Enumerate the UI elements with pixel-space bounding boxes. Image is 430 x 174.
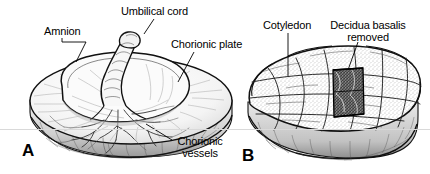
label-chorionic-plate: Chorionic plate [171, 39, 242, 51]
label-decidua-basalis-line2: removed [322, 32, 414, 44]
label-chorionic-vessels-line2: vessels [172, 148, 228, 160]
panel-b-artwork [248, 46, 421, 160]
label-umbilical-cord: Umbilical cord [121, 6, 188, 18]
label-cotyledon: Cotyledon [263, 20, 311, 32]
placenta-figure: Amnion Umbilical cord Chorionic plate Ch… [0, 0, 430, 174]
leader-umbilical-cord [144, 19, 154, 34]
panel-letter-a: A [22, 142, 34, 159]
label-amnion: Amnion [44, 26, 80, 38]
panel-letter-b: B [242, 147, 254, 164]
label-chorionic-vessels-line1: Chorionic [172, 136, 228, 148]
label-decidua-basalis-line1: Decidua basalis [322, 20, 414, 32]
scan-artifact-line [0, 129, 430, 130]
